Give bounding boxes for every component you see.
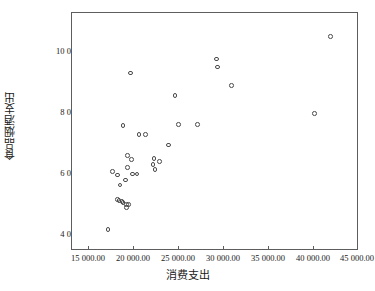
x-tick-mark: [88, 246, 89, 250]
x-tick-mark: [268, 246, 269, 250]
x-tick-label-45000: 45 000.00: [340, 253, 374, 264]
y-axis-title-text: 食品烟酒支出: [4, 91, 17, 160]
x-tick-label-35000: 35 000.00: [251, 253, 285, 264]
x-axis-title: 消费支出: [0, 268, 375, 282]
plot-area: [71, 12, 358, 250]
x-tick-mark: [133, 246, 134, 250]
x-tick-label-15000: 15 000.00: [71, 253, 105, 264]
y-axis-title: 食品烟酒支出: [2, 0, 18, 250]
scatter-chart: 食品烟酒支出 10 000.00 8 000.00 6 000.00 4 000…: [0, 0, 375, 291]
x-tick-label-30000: 30 000.00: [206, 253, 240, 264]
x-tick-mark: [357, 246, 358, 250]
x-tick-mark: [178, 246, 179, 250]
x-tick-mark: [313, 246, 314, 250]
x-tick-mark: [223, 246, 224, 250]
x-tick-label-25000: 25 000.00: [161, 253, 195, 264]
x-tick-label-20000: 20 000.00: [116, 253, 150, 264]
x-tick-label-40000: 40 000.00: [296, 253, 330, 264]
